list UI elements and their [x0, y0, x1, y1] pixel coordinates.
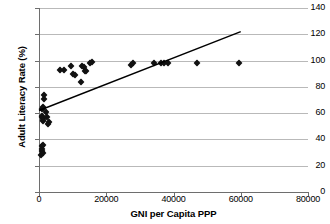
y-tick-140 [35, 8, 39, 9]
gridline-y-60 [39, 113, 308, 114]
y-tick-label-80: 80 [295, 82, 325, 91]
x-tick-label-0: 0 [16, 195, 62, 204]
y-tick-label-60: 60 [295, 108, 325, 117]
x-tick-label-20000: 20000 [83, 195, 129, 204]
gridline-y-20 [39, 166, 308, 167]
x-tick-label-80000: 80000 [285, 195, 330, 204]
gridline-y-80 [39, 87, 308, 88]
y-tick-100 [35, 61, 39, 62]
y-tick-60 [35, 113, 39, 114]
y-tick-80 [35, 87, 39, 88]
y-axis-title: Adult Literacy Rate (%) [17, 27, 27, 167]
plot-area [39, 8, 308, 192]
y-tick-label-140: 140 [295, 3, 325, 12]
x-axis-title: GNI per Capita PPP [39, 209, 308, 219]
x-tick-label-60000: 60000 [218, 195, 264, 204]
gridline-y-140 [39, 8, 308, 9]
y-axis-line [39, 8, 40, 193]
x-tick-label-40000: 40000 [151, 195, 197, 204]
y-tick-120 [35, 34, 39, 35]
gridline-y-100 [39, 61, 308, 62]
gridline-y-120 [39, 34, 308, 35]
y-tick-label-20: 20 [295, 161, 325, 170]
gridline-y-40 [39, 139, 308, 140]
y-tick-label-120: 120 [295, 29, 325, 38]
y-tick-label-100: 100 [295, 56, 325, 65]
y-tick-20 [35, 166, 39, 167]
y-tick-label-40: 40 [295, 134, 325, 143]
y-tick-40 [35, 139, 39, 140]
